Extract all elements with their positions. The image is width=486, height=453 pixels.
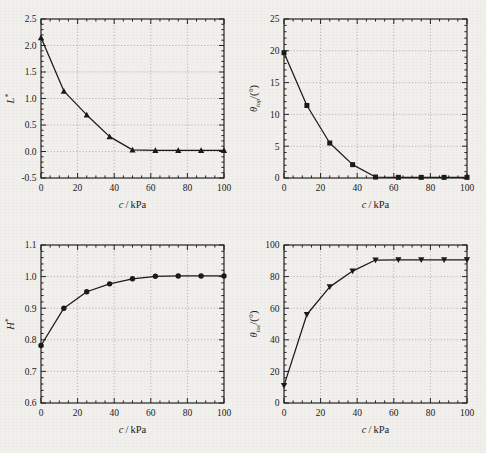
svg-text:100: 100 bbox=[265, 240, 280, 250]
svg-text:0.8: 0.8 bbox=[25, 335, 37, 345]
axis-ticks bbox=[284, 19, 467, 178]
svg-text:100: 100 bbox=[460, 408, 475, 418]
data-series-line bbox=[41, 38, 224, 151]
data-point bbox=[198, 273, 203, 278]
svg-text:80: 80 bbox=[426, 183, 436, 193]
svg-text:60: 60 bbox=[146, 183, 156, 193]
svg-text:0.7: 0.7 bbox=[25, 367, 37, 377]
svg-text:20: 20 bbox=[73, 183, 83, 193]
svg-text:60: 60 bbox=[146, 408, 156, 418]
grid-lines bbox=[41, 245, 224, 403]
data-point bbox=[107, 281, 112, 286]
svg-text:0.9: 0.9 bbox=[25, 304, 37, 314]
svg-text:100: 100 bbox=[460, 183, 475, 193]
svg-text:40: 40 bbox=[109, 408, 119, 418]
x-axis-title: c / kPa bbox=[119, 424, 147, 435]
svg-text:10: 10 bbox=[270, 110, 280, 120]
x-tick-labels: 020406080100 bbox=[39, 408, 232, 418]
svg-text:100: 100 bbox=[217, 183, 232, 193]
svg-text:60: 60 bbox=[389, 408, 399, 418]
x-tick-labels: 020406080100 bbox=[282, 408, 475, 418]
data-point bbox=[396, 175, 401, 180]
axes-frame bbox=[284, 245, 467, 403]
grid-lines bbox=[284, 19, 467, 178]
data-point-markers bbox=[38, 273, 226, 348]
data-point bbox=[61, 88, 67, 94]
svg-text:40: 40 bbox=[352, 408, 362, 418]
chart-panel-b: 0204060801000510152025c / kPaθtop/(°) bbox=[243, 0, 486, 226]
data-point bbox=[282, 50, 287, 55]
svg-text:80: 80 bbox=[183, 183, 193, 193]
x-axis-title: c / kPa bbox=[119, 199, 147, 210]
svg-text:0: 0 bbox=[282, 408, 287, 418]
svg-text:15: 15 bbox=[270, 78, 280, 88]
figure-panel-grid: 020406080100-0.50.00.51.01.52.02.5c / kP… bbox=[0, 0, 486, 453]
svg-text:0: 0 bbox=[39, 408, 44, 418]
axis-ticks bbox=[41, 245, 224, 403]
svg-text:20: 20 bbox=[316, 408, 326, 418]
svg-text:60: 60 bbox=[389, 183, 399, 193]
axes-frame bbox=[41, 19, 224, 178]
svg-text:1.0: 1.0 bbox=[25, 272, 37, 282]
svg-text:20: 20 bbox=[270, 46, 280, 56]
data-point bbox=[84, 289, 89, 294]
data-point bbox=[130, 276, 135, 281]
data-point bbox=[304, 103, 309, 108]
svg-text:25: 25 bbox=[270, 14, 280, 24]
data-point-markers bbox=[282, 50, 470, 180]
svg-text:20: 20 bbox=[73, 408, 83, 418]
svg-text:0.6: 0.6 bbox=[25, 398, 37, 408]
axis-ticks bbox=[284, 245, 467, 403]
data-point bbox=[153, 274, 158, 279]
axes-frame bbox=[284, 19, 467, 178]
data-point bbox=[442, 175, 447, 180]
grid-lines bbox=[41, 19, 224, 178]
data-point bbox=[221, 273, 226, 278]
chart-panel-a: 020406080100-0.50.00.51.01.52.02.5c / kP… bbox=[0, 0, 243, 226]
svg-text:5: 5 bbox=[275, 142, 280, 152]
x-tick-labels: 020406080100 bbox=[282, 183, 475, 193]
y-axis-title: L* bbox=[4, 94, 16, 105]
data-point-markers bbox=[281, 257, 470, 389]
y-tick-labels: 0510152025 bbox=[270, 14, 280, 183]
svg-text:20: 20 bbox=[316, 183, 326, 193]
chart-panel-d: 020406080100020406080100c / kPaθtoe/(°) bbox=[243, 226, 486, 453]
svg-text:20: 20 bbox=[270, 367, 280, 377]
svg-text:1.5: 1.5 bbox=[25, 67, 37, 77]
data-series-line bbox=[284, 53, 467, 178]
svg-text:-0.5: -0.5 bbox=[21, 173, 36, 183]
axis-ticks bbox=[41, 19, 224, 178]
data-point bbox=[304, 312, 310, 318]
y-axis-title: θtoe/(°) bbox=[248, 310, 261, 337]
svg-text:80: 80 bbox=[426, 408, 436, 418]
data-series-line bbox=[284, 260, 467, 386]
data-point bbox=[419, 175, 424, 180]
svg-text:2.0: 2.0 bbox=[25, 41, 37, 51]
svg-text:0: 0 bbox=[39, 183, 44, 193]
x-tick-labels: 020406080100 bbox=[39, 183, 232, 193]
data-point bbox=[38, 343, 43, 348]
y-tick-labels: -0.50.00.51.01.52.02.5 bbox=[21, 14, 36, 183]
x-axis-title: c / kPa bbox=[362, 424, 390, 435]
svg-text:40: 40 bbox=[109, 183, 119, 193]
y-axis-title: H* bbox=[4, 318, 16, 331]
y-axis-title: θtop/(°) bbox=[248, 84, 261, 112]
grid-lines bbox=[284, 245, 467, 403]
svg-text:40: 40 bbox=[270, 335, 280, 345]
svg-text:2.5: 2.5 bbox=[25, 14, 37, 24]
data-point bbox=[373, 175, 378, 180]
svg-text:0.0: 0.0 bbox=[25, 147, 37, 157]
svg-text:0: 0 bbox=[282, 183, 287, 193]
y-tick-labels: 020406080100 bbox=[265, 240, 280, 408]
data-point bbox=[350, 162, 355, 167]
data-point bbox=[465, 175, 470, 180]
data-point bbox=[176, 273, 181, 278]
axes-frame bbox=[41, 245, 224, 403]
data-point bbox=[327, 141, 332, 146]
svg-text:1.1: 1.1 bbox=[25, 240, 37, 250]
data-point bbox=[281, 383, 287, 389]
svg-text:80: 80 bbox=[270, 272, 280, 282]
svg-text:60: 60 bbox=[270, 304, 280, 314]
svg-text:1.0: 1.0 bbox=[25, 94, 37, 104]
data-point bbox=[61, 306, 66, 311]
